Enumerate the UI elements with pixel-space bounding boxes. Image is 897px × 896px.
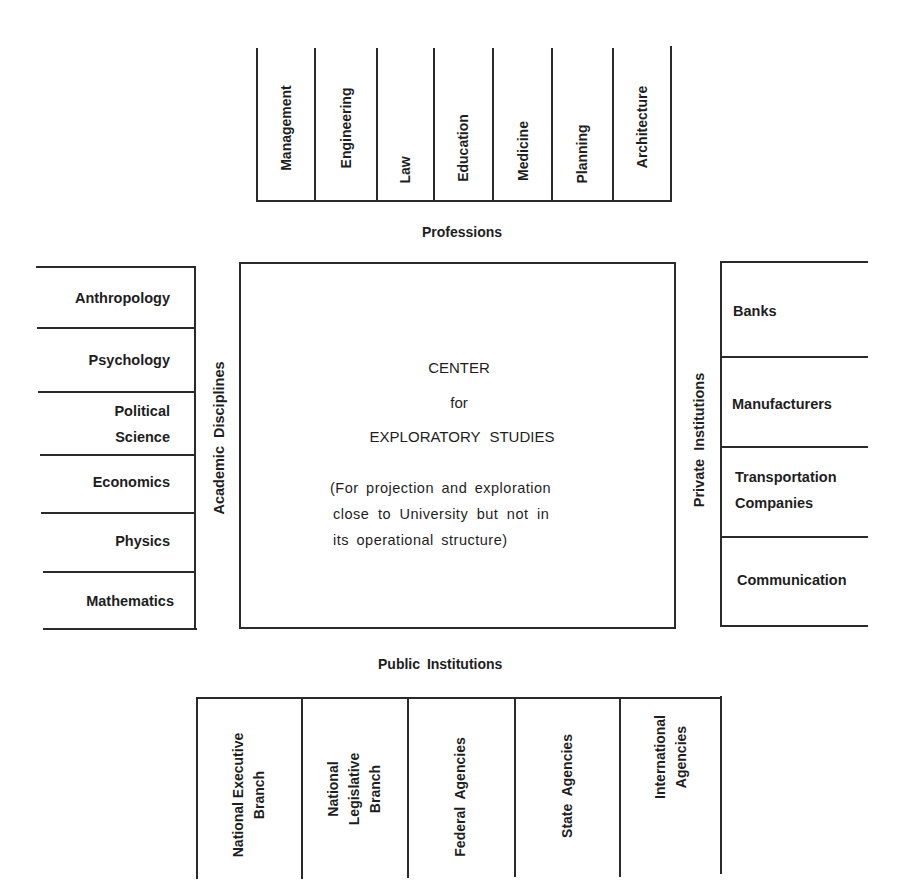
- divider: [612, 48, 614, 202]
- profession-engineering: Engineering: [337, 88, 355, 169]
- divider: [256, 48, 258, 202]
- profession-education: Education: [454, 114, 472, 182]
- divider: [514, 697, 516, 877]
- divider: [301, 697, 303, 879]
- private-communication: Communication: [737, 567, 847, 593]
- private-transportation-companies: Transportation Companies: [735, 464, 837, 516]
- public-international-agencies: International Agencies: [650, 715, 692, 799]
- academic-disciplines-title: Academic Disciplines: [210, 361, 228, 514]
- profession-law: Law: [396, 156, 414, 183]
- divider: [314, 48, 316, 202]
- private-manufacturers: Manufacturers: [732, 391, 832, 417]
- discipline-political-science: Political Science: [40, 398, 170, 450]
- divider: [720, 261, 722, 627]
- public-national-executive-branch: National Executive Branch: [228, 733, 270, 858]
- divider: [194, 266, 196, 630]
- divider: [43, 571, 196, 573]
- divider: [40, 454, 196, 456]
- profession-planning: Planning: [573, 124, 591, 183]
- public-state-agencies: State Agencies: [558, 734, 576, 838]
- public-national-legislative-branch: National Legislative Branch: [323, 753, 386, 825]
- divider: [239, 262, 241, 629]
- private-banks: Banks: [733, 298, 777, 324]
- private-institutions-title: Private Institutions: [690, 373, 708, 508]
- discipline-psychology: Psychology: [40, 347, 170, 373]
- center-title-line3: EXPLORATORY STUDIES: [239, 428, 685, 445]
- center-title-line2: for: [239, 394, 679, 411]
- divider: [670, 46, 672, 201]
- divider: [720, 356, 868, 358]
- center-description-line2: close to University but not in: [333, 501, 549, 527]
- divider: [433, 48, 435, 202]
- divider: [407, 697, 409, 878]
- divider: [38, 391, 196, 393]
- discipline-mathematics: Mathematics: [40, 588, 174, 614]
- divider: [551, 48, 553, 202]
- divider: [376, 48, 378, 202]
- discipline-anthropology: Anthropology: [40, 285, 170, 311]
- profession-architecture: Architecture: [633, 86, 651, 168]
- divider: [36, 266, 196, 268]
- center-description-line1: (For projection and exploration: [330, 475, 551, 501]
- divider: [196, 697, 722, 699]
- profession-management: Management: [277, 85, 295, 171]
- divider: [721, 625, 868, 627]
- divider: [256, 200, 672, 202]
- divider: [239, 262, 676, 264]
- divider: [41, 512, 196, 514]
- divider: [720, 261, 868, 263]
- discipline-physics: Physics: [40, 528, 170, 554]
- public-institutions-title: Public Institutions: [378, 656, 502, 672]
- divider: [240, 627, 676, 629]
- professions-title: Professions: [422, 224, 502, 240]
- profession-medicine: Medicine: [514, 121, 532, 181]
- divider: [43, 628, 197, 630]
- divider: [720, 446, 868, 448]
- divider: [37, 327, 196, 329]
- public-federal-agencies: Federal Agencies: [451, 737, 469, 856]
- divider: [196, 697, 198, 879]
- center-title-line1: CENTER: [239, 359, 679, 376]
- divider: [619, 697, 621, 877]
- divider: [674, 262, 676, 629]
- divider: [720, 696, 722, 874]
- discipline-economics: Economics: [40, 469, 170, 495]
- center-description-line3: its operational structure): [333, 527, 508, 553]
- divider: [721, 536, 868, 538]
- divider: [492, 48, 494, 202]
